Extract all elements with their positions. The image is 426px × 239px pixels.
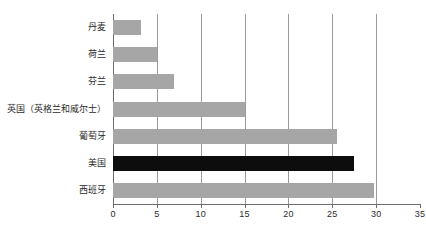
category-axis-labels: 丹麦荷兰芬兰英国（英格兰和威尔士）葡萄牙美国西班牙 (0, 14, 110, 204)
x-tick-label-30: 30 (371, 209, 381, 219)
x-tick-label-35: 35 (415, 209, 425, 219)
x-tick-label-0: 0 (110, 209, 115, 219)
category-label-2: 荷兰 (88, 47, 106, 62)
bar-row (113, 129, 420, 144)
x-tick-15 (245, 204, 246, 208)
bar-6 (113, 156, 354, 171)
x-axis-line (113, 204, 421, 205)
x-tick-25 (332, 204, 333, 208)
x-tick-label-25: 25 (327, 209, 337, 219)
category-label-5: 葡萄牙 (79, 129, 106, 144)
x-tick-label-20: 20 (283, 209, 293, 219)
bar-1 (113, 20, 141, 35)
bar-5 (113, 129, 337, 144)
bar-row (113, 20, 420, 35)
category-label-7: 西班牙 (79, 183, 106, 198)
plot-area (113, 14, 420, 204)
x-tick-label-10: 10 (195, 209, 205, 219)
bar-2 (113, 47, 157, 62)
bar-4 (113, 102, 245, 117)
x-tick-0 (113, 204, 114, 208)
x-tick-10 (201, 204, 202, 208)
bar-row (113, 102, 420, 117)
category-label-4: 英国（英格兰和威尔士） (7, 102, 106, 117)
bar-3 (113, 74, 174, 89)
horizontal-bar-chart: 丹麦荷兰芬兰英国（英格兰和威尔士）葡萄牙美国西班牙 05101520253035 (0, 0, 426, 239)
x-tick-30 (376, 204, 377, 208)
bar-row (113, 74, 420, 89)
bar-row (113, 183, 420, 198)
category-label-6: 美国 (88, 156, 106, 171)
x-tick-5 (157, 204, 158, 208)
bar-7 (113, 183, 374, 198)
x-tick-35 (420, 204, 421, 208)
x-tick-20 (288, 204, 289, 208)
x-tick-label-15: 15 (239, 209, 249, 219)
category-label-3: 芬兰 (88, 74, 106, 89)
x-tick-label-5: 5 (154, 209, 159, 219)
bar-row (113, 156, 420, 171)
bar-row (113, 47, 420, 62)
category-label-1: 丹麦 (88, 20, 106, 35)
